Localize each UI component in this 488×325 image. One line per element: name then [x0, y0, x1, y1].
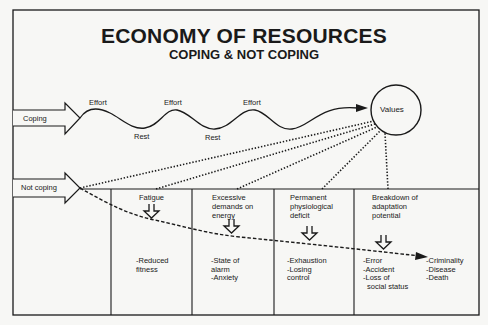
effort-label: Effort	[89, 99, 107, 107]
effort-rest-wave	[80, 108, 358, 130]
wave-arrowhead-icon	[356, 104, 368, 112]
stage-heading-excessive-demands: Excessive demands on energy	[212, 193, 253, 220]
values-label: Values	[380, 106, 404, 114]
coping-label: Coping	[23, 115, 47, 123]
not-coping-label: Not coping	[21, 184, 57, 192]
down-arrow-icon	[224, 219, 239, 233]
effort-label: Effort	[164, 99, 182, 107]
dotted-links-to-values	[80, 121, 388, 189]
stage-outcomes-fatigue: -Reduced fitness	[136, 257, 169, 274]
stage-heading-fatigue: Fatigue	[111, 193, 192, 202]
stage-heading-permanent-deficit: Permanent physiological deficit	[290, 193, 333, 220]
page-subtitle: COPING & NOT COPING	[0, 48, 488, 61]
stage-heading-breakdown: Breakdown of adaptation potential	[372, 193, 418, 220]
stage-outcomes-excessive-demands: -State of alarm -Anxiety	[211, 257, 239, 283]
final-outcomes: -Criminality -Disease -Death	[426, 257, 464, 283]
stage-outcomes-permanent-deficit: -Exhaustion -Losing control	[287, 257, 327, 283]
down-arrow-icon	[302, 226, 317, 240]
down-arrow-icon	[144, 204, 159, 218]
down-arrow-icon	[376, 235, 391, 249]
rest-label: Rest	[205, 134, 220, 142]
rest-label: Rest	[134, 133, 149, 141]
page-title: ECONOMY OF RESOURCES	[0, 25, 488, 46]
effort-label: Effort	[243, 99, 261, 107]
stage-outcomes-breakdown: -Error -Accident -Loss of social status	[363, 257, 408, 291]
